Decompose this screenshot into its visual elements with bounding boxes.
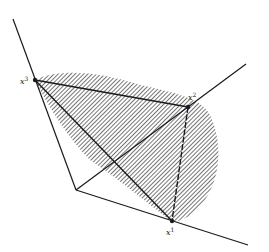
vertex-x2-label: x2 bbox=[188, 91, 197, 102]
vertex-x1-label: x1 bbox=[166, 226, 174, 237]
vertex-x3-point bbox=[33, 78, 37, 82]
vertex-x2-point bbox=[186, 105, 190, 109]
simplex-diagram: x3 x2 x1 bbox=[0, 0, 269, 252]
vertex-x3-label: x3 bbox=[20, 75, 29, 86]
vertex-x1-point bbox=[170, 219, 174, 223]
